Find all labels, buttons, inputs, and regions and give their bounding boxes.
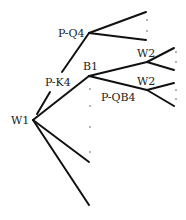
edge-w1-child3: [33, 120, 89, 162]
edge-w2b-child2: [147, 90, 174, 106]
game-tree-diagram: W1 P-Q4 P-K4 B1 W2 W2 P-QB4: [0, 0, 186, 220]
node-label-w2b: W2: [137, 75, 155, 88]
edge-w2a-child2: [147, 62, 174, 70]
node-label-w1: W1: [11, 114, 29, 127]
node-label-w2a: W2: [137, 47, 155, 60]
edge-label-pqb4: P-QB4: [101, 91, 136, 104]
node-label-pq4: P-Q4: [58, 27, 85, 40]
edge-pq4-child1: [89, 12, 146, 33]
edge-label-pk4: P-K4: [45, 76, 71, 89]
edge-w1-child4: [33, 120, 89, 205]
node-label-b1: B1: [83, 60, 98, 73]
edge-pq4-child2: [89, 33, 146, 40]
